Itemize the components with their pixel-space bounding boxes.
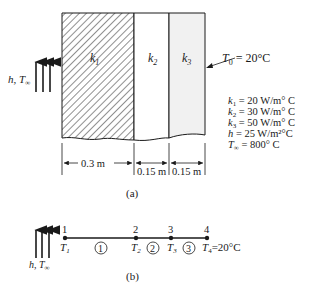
node-1-dot (63, 236, 67, 240)
convection-arrows-icon (36, 62, 50, 92)
element-1-number: 1 (98, 243, 103, 254)
node-2-temp: T2 (131, 241, 141, 255)
figure-a: k1 k2 k3 h, T∞ T0 = 20°C k1 = 20 W/m° C … (8, 13, 295, 200)
node-4-number: 4 (204, 224, 210, 235)
node-1-temp: T1 (60, 241, 70, 255)
caption-b: (b) (126, 270, 139, 283)
dimension-layer-2: 0.15 m (137, 166, 166, 177)
boundary-arrow-icon (206, 63, 213, 68)
node-2-dot (134, 236, 138, 240)
convection-arrows-b-icon (36, 230, 49, 258)
composite-wall-diagram: k1 k2 k3 h, T∞ T0 = 20°C k1 = 20 W/m° C … (0, 0, 313, 292)
element-2-number: 2 (150, 243, 155, 254)
figure-b: h, T∞ 1 2 3 4 T1 T2 T3 T4=20°C 1 2 3 (b) (29, 224, 241, 283)
convection-label: h, T∞ (8, 73, 30, 87)
caption-a: (a) (126, 187, 139, 200)
node-3-temp: T3 (167, 241, 177, 255)
property-t-inf: T∞ = 800° C (228, 139, 280, 152)
node-3-dot (169, 236, 173, 240)
element-3-number: 3 (186, 243, 191, 254)
property-list: k1 = 20 W/m° C k2 = 30 W/m° C k3 = 50 W/… (228, 95, 295, 152)
node-3-number: 3 (168, 224, 173, 235)
node-2-number: 2 (133, 224, 138, 235)
property-h: h = 25 W/m²°C (228, 128, 293, 139)
dimension-layer-3: 0.15 m (172, 166, 201, 177)
layer-3-region (169, 13, 205, 138)
node-4-dot (205, 236, 209, 240)
layer-2-region (134, 13, 169, 140)
boundary-temperature-label: T0 = 20°C (222, 51, 270, 67)
layer-1-region (62, 13, 134, 140)
dimension-layer-1: 0.3 m (81, 158, 105, 169)
convection-label-b: h, T∞ (29, 259, 50, 272)
node-1-number: 1 (62, 224, 67, 235)
node-4-temp: T4=20°C (202, 241, 241, 255)
